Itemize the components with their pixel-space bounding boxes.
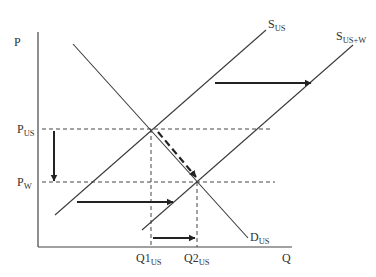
s-us-label: SUS — [268, 17, 286, 33]
movement-along-demand-arrow — [158, 132, 196, 177]
s-us-w-label: SUS+W — [336, 29, 366, 45]
supply-curve-s-us — [55, 30, 266, 215]
demand-curve-d-us — [73, 44, 248, 238]
p-us-label: PUS — [17, 122, 35, 138]
supply-demand-diagram: P Q SUS SUS+W DUS PUS PW Q1US Q2US — [0, 0, 376, 277]
q2-us-label: Q2US — [184, 251, 210, 267]
x-axis-label: Q — [282, 251, 291, 265]
d-us-label: DUS — [250, 230, 270, 246]
p-w-label: PW — [17, 175, 32, 191]
supply-curve-s-us-w — [142, 45, 353, 230]
y-axis-label: P — [14, 35, 21, 49]
q1-us-label: Q1US — [136, 251, 162, 267]
